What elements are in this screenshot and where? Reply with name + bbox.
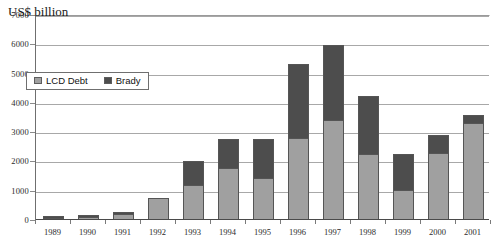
bar-segment-brady[interactable] [288, 64, 310, 138]
x-axis-tick-label: 1999 [394, 227, 411, 237]
x-axis-tick-mark [140, 220, 141, 224]
bar-segment-brady[interactable] [218, 139, 240, 167]
bar-segment-brady[interactable] [463, 115, 485, 123]
x-axis-tick-mark [35, 220, 36, 224]
x-axis-tick-label: 1998 [359, 227, 376, 237]
chart-container: 01000200030004000500060007000 US$ billio… [0, 0, 494, 248]
plot-area [35, 15, 490, 220]
legend-label-brady: Brady [116, 75, 141, 86]
x-axis: 1989199019911992199319941995199619971998… [35, 220, 490, 248]
bar-series-group [36, 16, 489, 220]
bar-segment-brady[interactable] [323, 45, 345, 121]
x-axis-tick-mark [315, 220, 316, 224]
x-axis-tick-label: 1991 [114, 227, 131, 237]
y-axis-tick-label: 1000 [0, 186, 29, 196]
bar-group[interactable] [288, 64, 310, 220]
y-axis-tick-label: 4000 [0, 98, 29, 108]
y-axis-tick-label: 2000 [0, 156, 29, 166]
legend-item-brady: Brady [104, 75, 141, 86]
x-axis-tick-label: 1995 [254, 227, 271, 237]
legend-swatch-lcd-debt [34, 77, 42, 84]
bar-group[interactable] [253, 139, 275, 220]
chart-legend: LCD Debt Brady [26, 72, 149, 90]
x-axis-tick-mark [490, 220, 491, 224]
bar-segment-lcd-debt[interactable] [393, 190, 415, 220]
y-axis-tick-mark [30, 161, 35, 162]
bar-group[interactable] [323, 45, 345, 220]
x-axis-tick-label: 1997 [324, 227, 341, 237]
y-axis-tick-mark [30, 132, 35, 133]
x-axis-tick-label: 2000 [429, 227, 446, 237]
bar-segment-lcd-debt[interactable] [323, 120, 345, 220]
bar-segment-lcd-debt[interactable] [358, 154, 380, 220]
bar-segment-lcd-debt[interactable] [218, 168, 240, 220]
legend-label-lcd-debt: LCD Debt [46, 75, 88, 86]
x-axis-tick-mark [350, 220, 351, 224]
bar-group[interactable] [148, 198, 170, 220]
x-axis-tick-mark [385, 220, 386, 224]
x-axis-tick-mark [455, 220, 456, 224]
bar-segment-brady[interactable] [183, 161, 205, 184]
bar-group[interactable] [463, 115, 485, 220]
x-axis-tick-mark [210, 220, 211, 224]
x-axis-tick-label: 1993 [184, 227, 201, 237]
x-axis-tick-label: 1992 [149, 227, 166, 237]
y-axis-tick-label: 6000 [0, 39, 29, 49]
y-axis-tick-mark [30, 191, 35, 192]
bar-segment-brady[interactable] [393, 154, 415, 190]
y-axis-tick-mark [30, 103, 35, 104]
bar-segment-lcd-debt[interactable] [183, 185, 205, 220]
x-axis-tick-mark [420, 220, 421, 224]
x-axis-tick-mark [70, 220, 71, 224]
bar-segment-lcd-debt[interactable] [428, 153, 450, 220]
x-axis-tick-mark [175, 220, 176, 224]
bar-segment-brady[interactable] [358, 96, 380, 153]
y-axis-tick-mark [30, 44, 35, 45]
x-axis-tick-label: 1996 [289, 227, 306, 237]
x-axis-tick-label: 2001 [464, 227, 481, 237]
y-axis [0, 0, 29, 248]
bar-group[interactable] [183, 161, 205, 220]
bar-segment-brady[interactable] [253, 139, 275, 179]
chart-title: US$ billion [8, 4, 68, 20]
bar-group[interactable] [358, 96, 380, 220]
bar-segment-lcd-debt[interactable] [253, 178, 275, 220]
x-axis-tick-mark [245, 220, 246, 224]
x-axis-tick-label: 1990 [79, 227, 96, 237]
x-axis-tick-label: 1989 [44, 227, 61, 237]
legend-item-lcd-debt: LCD Debt [34, 75, 88, 86]
bar-segment-brady[interactable] [428, 135, 450, 153]
x-axis-tick-label: 1994 [219, 227, 236, 237]
y-axis-tick-label: 3000 [0, 127, 29, 137]
bar-segment-lcd-debt[interactable] [148, 198, 170, 220]
legend-swatch-brady [104, 77, 112, 84]
bar-group[interactable] [393, 154, 415, 220]
x-axis-tick-mark [280, 220, 281, 224]
bar-group[interactable] [428, 135, 450, 220]
bar-segment-lcd-debt[interactable] [463, 123, 485, 220]
bar-segment-lcd-debt[interactable] [288, 138, 310, 220]
bar-group[interactable] [218, 139, 240, 220]
y-axis-tick-label: 0 [0, 215, 29, 225]
y-axis-tick-label: 5000 [0, 69, 29, 79]
x-axis-tick-mark [105, 220, 106, 224]
